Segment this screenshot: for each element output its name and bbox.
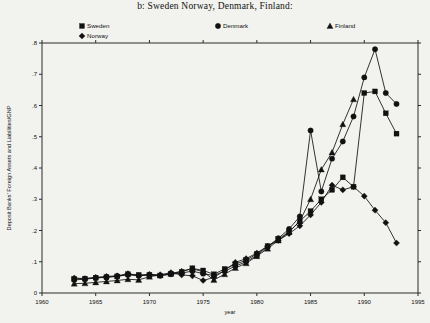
data-point-triangle: [329, 149, 335, 155]
data-point-circle: [351, 114, 356, 119]
y-tick-label: .7: [32, 71, 38, 77]
data-point-square: [394, 131, 399, 136]
legend-item-finland[interactable]: Finland: [327, 22, 356, 29]
data-point-triangle: [350, 96, 356, 102]
y-tick-label: .8: [32, 40, 38, 46]
y-tick-label: 0: [34, 290, 38, 296]
data-point-triangle: [318, 166, 324, 172]
data-point-diamond: [79, 33, 85, 39]
series-denmark: [72, 47, 400, 283]
line-chart: 0.1.2.3.4.5.6.7.819601965197019751980198…: [0, 0, 430, 323]
y-tick-label: .3: [32, 196, 38, 202]
y-axis-title: Deposit Banks' Foreign Assets and Liabil…: [6, 105, 12, 230]
x-axis-title: year: [225, 309, 236, 315]
x-tick-label: 1985: [304, 299, 318, 305]
data-point-circle: [394, 101, 399, 106]
data-point-circle: [319, 189, 324, 194]
x-tick-label: 1965: [89, 299, 103, 305]
data-point-circle: [329, 156, 334, 161]
series-sweden: [72, 89, 399, 282]
legend-label: Norway: [87, 32, 109, 39]
x-tick-label: 1990: [358, 299, 372, 305]
data-point-triangle: [327, 23, 333, 29]
x-tick-label: 1975: [196, 299, 210, 305]
legend-label: Finland: [335, 22, 356, 29]
x-tick-label: 1960: [35, 299, 49, 305]
data-point-triangle: [125, 276, 131, 282]
data-point-circle: [308, 128, 313, 133]
legend-item-norway[interactable]: Norway: [79, 32, 109, 39]
x-tick-label: 1995: [411, 299, 425, 305]
data-point-square: [383, 111, 388, 116]
chart-container: b: Sweden Norway, Denmark, Finland: 0.1.…: [0, 0, 430, 323]
y-tick-label: .4: [32, 165, 38, 171]
data-point-circle: [362, 75, 367, 80]
data-point-triangle: [340, 121, 346, 127]
y-tick-label: .2: [32, 228, 38, 234]
data-point-square: [362, 91, 367, 96]
legend-item-denmark[interactable]: Denmark: [215, 22, 249, 29]
data-point-circle: [215, 23, 220, 28]
y-tick-label: .5: [32, 134, 38, 140]
data-point-square: [373, 89, 378, 94]
data-point-circle: [340, 139, 345, 144]
data-point-square: [80, 24, 85, 29]
data-point-diamond: [200, 277, 206, 283]
series-line-denmark: [74, 49, 396, 280]
data-point-triangle: [307, 196, 313, 202]
series-finland: [71, 96, 357, 286]
data-point-diamond: [393, 240, 399, 246]
y-tick-label: .1: [32, 259, 38, 265]
data-point-circle: [372, 47, 377, 52]
y-tick-label: .6: [32, 103, 38, 109]
legend-item-sweden[interactable]: Sweden: [80, 22, 110, 29]
series-line-finland: [74, 99, 353, 283]
x-tick-label: 1980: [250, 299, 264, 305]
x-tick-label: 1970: [143, 299, 157, 305]
legend-label: Denmark: [223, 22, 249, 29]
data-point-circle: [383, 90, 388, 95]
legend-label: Sweden: [87, 22, 110, 29]
data-point-square: [340, 175, 345, 180]
data-point-diamond: [340, 187, 346, 193]
series-line-sweden: [74, 91, 396, 279]
